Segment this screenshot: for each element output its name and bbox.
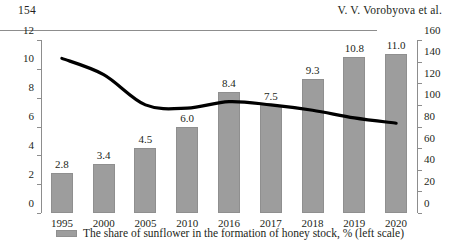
left-axis-tick-label: 12	[8, 25, 34, 36]
legend-label-bar-series: The share of sunflower in the formation …	[83, 227, 404, 239]
page-number: 154	[18, 4, 36, 16]
left-axis-tick	[37, 213, 41, 214]
right-axis-tick	[418, 62, 422, 63]
chart-legend: The share of sunflower in the formation …	[0, 224, 460, 242]
left-axis-tick-label: 8	[8, 82, 34, 93]
line-series-svg	[41, 40, 417, 213]
legend-swatch-bar-series	[56, 230, 77, 237]
right-axis-tick	[418, 213, 422, 214]
right-axis-tick	[418, 127, 422, 128]
right-axis: 020406080100120140160	[424, 30, 456, 203]
right-axis-tick-label: 20	[424, 176, 454, 187]
right-axis-tick-label: 120	[424, 68, 454, 79]
right-axis-tick	[418, 105, 422, 106]
left-axis-tick-label: 0	[8, 198, 34, 209]
right-axis-tick-label: 60	[424, 133, 454, 144]
right-axis-tick-label: 160	[424, 25, 454, 36]
right-axis-tick-label: 0	[424, 198, 454, 209]
right-axis-tick	[418, 170, 422, 171]
running-head-authors: V. V. Vorobyova et al.	[337, 4, 442, 16]
left-axis: 024681012	[6, 30, 34, 203]
left-axis-tick-label: 6	[8, 111, 34, 122]
left-axis-tick-label: 10	[8, 53, 34, 64]
category-axis-line	[0, 30, 377, 31]
right-axis-tick	[418, 148, 422, 149]
right-axis-tick-label: 80	[424, 111, 454, 122]
right-axis-tick	[418, 83, 422, 84]
chart-page: 154 V. V. Vorobyova et al. 024681012 020…	[0, 0, 460, 247]
left-axis-tick-label: 2	[8, 169, 34, 180]
right-axis-tick-label: 40	[424, 154, 454, 165]
chart-figure: 024681012 020406080100120140160 2.83.44.…	[0, 30, 460, 215]
running-head: 154 V. V. Vorobyova et al.	[0, 4, 460, 20]
right-axis-tick-label: 140	[424, 46, 454, 57]
right-axis-tick-label: 100	[424, 89, 454, 100]
right-axis-tick	[418, 191, 422, 192]
line-series	[41, 40, 417, 213]
right-axis-tick	[418, 40, 422, 41]
left-axis-tick-label: 4	[8, 140, 34, 151]
